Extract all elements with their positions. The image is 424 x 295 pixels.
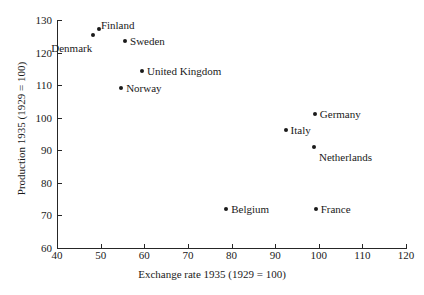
x-tick-label: 70 [168,250,208,261]
data-point [284,128,288,132]
data-point [123,39,127,43]
data-point-label: Finland [101,20,135,31]
data-point-label: Denmark [51,43,92,54]
data-point-label: Belgium [231,203,269,214]
data-point-label: Norway [126,83,161,94]
data-point-label: Germany [320,109,361,120]
y-tick-label: 120 [26,48,52,59]
x-tick-label: 110 [342,250,382,261]
x-axis-title: Exchange rate 1935 (1929 = 100) [0,268,424,281]
x-tick-label: 40 [37,250,77,261]
y-axis-title: Production 1935 (1929 = 100) [15,39,28,219]
data-point [313,112,317,116]
scatter-chart-figure: 60708090100110120130 4050607080901001101… [0,0,424,295]
data-point-label: Netherlands [319,152,372,163]
x-tick-label: 120 [386,250,424,261]
x-tick-label: 100 [299,250,339,261]
data-point [140,69,144,73]
y-tick-label: 130 [26,15,52,26]
data-point-label: France [321,203,351,214]
data-point [312,145,316,149]
x-tick-label: 50 [81,250,121,261]
data-point-label: Sweden [130,35,165,46]
data-point-label: United Kingdom [147,65,221,76]
y-tick-label: 80 [26,178,52,189]
data-point [314,207,318,211]
data-point-label: Italy [291,125,311,136]
x-tick-label: 90 [255,250,295,261]
x-tick-label: 80 [212,250,252,261]
y-tick-label: 100 [26,113,52,124]
y-tick-label: 110 [26,80,52,91]
x-tick-label: 60 [124,250,164,261]
y-tick-label: 90 [26,145,52,156]
y-tick-label: 70 [26,210,52,221]
